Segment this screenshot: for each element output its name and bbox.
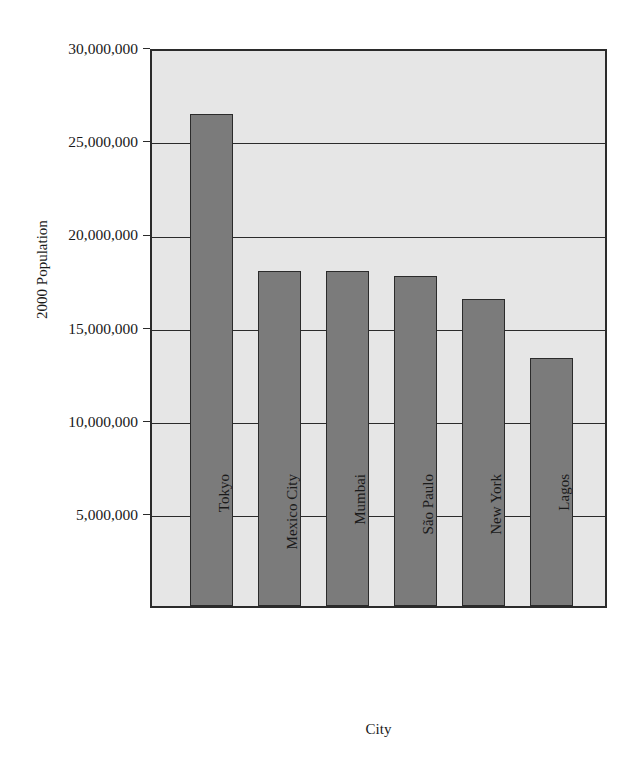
y-axis-tick-label: 15,000,000 bbox=[0, 321, 138, 337]
y-axis-tick-label: 10,000,000 bbox=[0, 414, 138, 430]
x-axis-tick-label: São Paulo bbox=[421, 474, 436, 614]
y-axis-tick bbox=[143, 328, 150, 329]
x-axis-tick-label: New York bbox=[489, 474, 504, 614]
y-axis-tick-label: 25,000,000 bbox=[0, 134, 138, 150]
y-axis-tick-label: 20,000,000 bbox=[0, 227, 138, 243]
y-axis-tick bbox=[143, 235, 150, 236]
x-axis-title: City bbox=[150, 722, 607, 737]
y-axis-tick-label: 5,000,000 bbox=[0, 507, 138, 523]
x-axis-tick-label: Lagos bbox=[557, 474, 572, 614]
y-axis-tick bbox=[143, 514, 150, 515]
x-axis-tick-label: Tokyo bbox=[217, 474, 232, 614]
y-axis-tick bbox=[143, 48, 150, 49]
y-axis-tick bbox=[143, 141, 150, 142]
bar-chart-figure: 2000 Population 5,000,00010,000,00015,00… bbox=[0, 0, 644, 766]
x-axis-tick-label: Mexico City bbox=[285, 474, 300, 614]
x-axis-tick-label: Mumbai bbox=[353, 474, 368, 614]
y-axis-tick-label: 30,000,000 bbox=[0, 41, 138, 57]
y-axis-tick bbox=[143, 421, 150, 422]
